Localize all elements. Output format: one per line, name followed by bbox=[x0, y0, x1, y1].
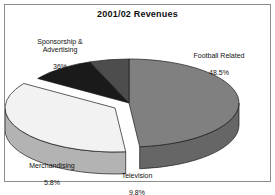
pie-label-merchandising: Merchandising 5.8% bbox=[13, 153, 91, 187]
chart-frame: 2001/02 Revenues Sponsorship & Advertisi… bbox=[4, 4, 271, 182]
pie-label-television-value: 9.8% bbox=[129, 189, 145, 190]
pie-label-sponsorship-name: Sponsorship & Advertising bbox=[37, 38, 83, 54]
pie-label-merchandising-name: Merchandising bbox=[29, 162, 75, 169]
pie-label-football-value: 48.5% bbox=[209, 69, 229, 76]
pie-label-football-related: Football Related 48.5% bbox=[173, 43, 265, 77]
pie-label-sponsorship-value: 36% bbox=[53, 63, 67, 70]
pie-label-television-name: Television bbox=[122, 172, 153, 179]
pie-label-merchandising-value: 5.8% bbox=[44, 179, 60, 186]
pie-label-sponsorship-advertising: Sponsorship & Advertising 36% bbox=[17, 29, 103, 72]
pie-label-football-name: Football Related bbox=[194, 52, 245, 59]
pie-label-television: Television 9.8% bbox=[101, 163, 173, 189]
